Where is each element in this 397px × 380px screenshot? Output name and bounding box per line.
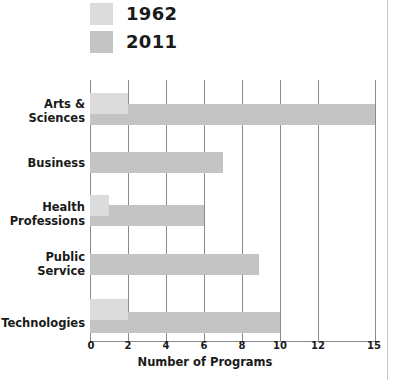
category-label-arts-sciences: Arts & Sciences [29, 97, 86, 125]
legend-label-2011: 2011 [126, 31, 177, 53]
bar-1962-technologies [90, 299, 128, 320]
bar-2011-business [90, 152, 223, 173]
category-label-business: Business [28, 156, 85, 170]
tick-label: 6 [194, 340, 214, 351]
legend-label-1962: 1962 [126, 3, 177, 25]
legend-swatch-1962 [90, 3, 113, 25]
tick-label: 2 [118, 340, 138, 351]
category-label-public-service: Public Service [37, 250, 85, 278]
page-edge-rule [387, 0, 388, 380]
tick-label: 10 [270, 340, 290, 351]
gridline-15 [375, 80, 376, 341]
legend-swatch-2011 [90, 31, 113, 53]
tick-label: 4 [156, 340, 176, 351]
bar-1962-arts-sciences [90, 93, 128, 114]
tick-label: 8 [232, 340, 252, 351]
bar-1962-health-professions [90, 195, 109, 216]
tick-label: 12 [308, 340, 328, 351]
category-label-technologies: Technologies [1, 316, 85, 330]
category-label-health-professions: Health Professions [10, 200, 85, 228]
bar-2011-arts-sciences [90, 104, 375, 125]
tick-label: 0 [81, 340, 101, 351]
x-axis-title: Number of Programs [90, 355, 320, 369]
tick-label: 15 [364, 340, 384, 351]
bar-2011-public-service [90, 254, 259, 275]
